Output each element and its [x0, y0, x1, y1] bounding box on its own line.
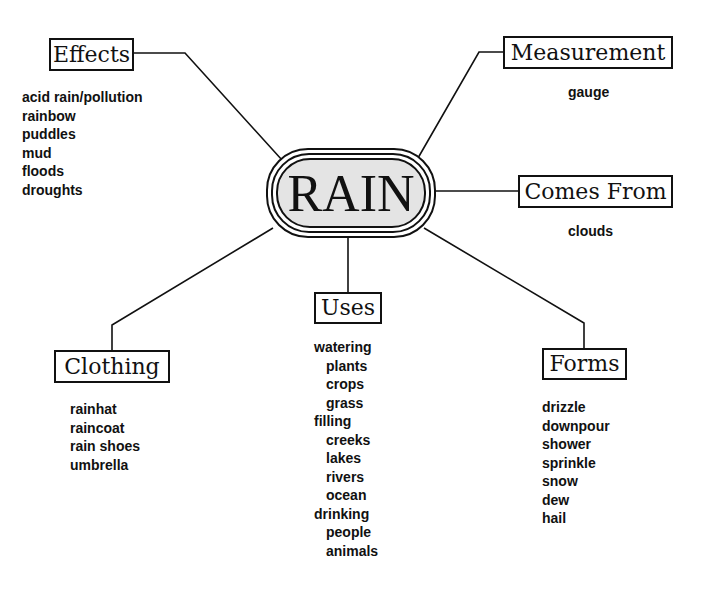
list-item: umbrella — [70, 456, 140, 475]
list-item: rain shoes — [70, 437, 140, 456]
list-item: sprinkle — [542, 454, 610, 473]
branch-title-clothing: Clothing — [54, 350, 170, 383]
list-subitem: ocean — [314, 486, 378, 505]
list-subitem: crops — [314, 375, 378, 394]
list-item: rainbow — [22, 107, 143, 126]
uses-list: watering plants crops grass filling cree… — [314, 338, 378, 560]
list-item: drinking — [314, 505, 378, 524]
list-item: filling — [314, 412, 378, 431]
list-subitem: creeks — [314, 431, 378, 450]
list-item: snow — [542, 472, 610, 491]
branch-title-uses: Uses — [314, 292, 382, 324]
list-item: gauge — [568, 83, 609, 102]
rain-concept-map: RAIN Effects acid rain/pollution rainbow… — [0, 0, 708, 603]
connector-effects — [134, 53, 282, 160]
center-node: RAIN — [266, 148, 436, 238]
list-item: watering — [314, 338, 378, 357]
branch-title-comes-from: Comes From — [518, 175, 673, 208]
list-subitem: people — [314, 523, 378, 542]
effects-list: acid rain/pollution rainbow puddles mud … — [22, 88, 143, 199]
list-item: floods — [22, 162, 143, 181]
list-subitem: grass — [314, 394, 378, 413]
list-subitem: lakes — [314, 449, 378, 468]
list-item: mud — [22, 144, 143, 163]
list-item: droughts — [22, 181, 143, 200]
list-item: hail — [542, 509, 610, 528]
list-item: clouds — [568, 222, 613, 241]
connector-measurement — [418, 52, 503, 158]
list-item: acid rain/pollution — [22, 88, 143, 107]
connector-clothing — [112, 228, 273, 350]
comes-from-list: clouds — [568, 222, 613, 241]
list-item: shower — [542, 435, 610, 454]
clothing-list: rainhat raincoat rain shoes umbrella — [70, 400, 140, 474]
measurement-list: gauge — [568, 83, 609, 102]
branch-title-forms: Forms — [542, 348, 627, 380]
list-item: rainhat — [70, 400, 140, 419]
list-item: puddles — [22, 125, 143, 144]
list-subitem: rivers — [314, 468, 378, 487]
list-item: dew — [542, 491, 610, 510]
center-label: RAIN — [276, 158, 426, 228]
branch-title-measurement: Measurement — [503, 36, 673, 69]
list-subitem: plants — [314, 357, 378, 376]
connector-forms — [424, 228, 584, 348]
list-item: raincoat — [70, 419, 140, 438]
list-item: drizzle — [542, 398, 610, 417]
forms-list: drizzle downpour shower sprinkle snow de… — [542, 398, 610, 528]
list-subitem: animals — [314, 542, 378, 561]
branch-title-effects: Effects — [49, 38, 134, 71]
list-item: downpour — [542, 417, 610, 436]
